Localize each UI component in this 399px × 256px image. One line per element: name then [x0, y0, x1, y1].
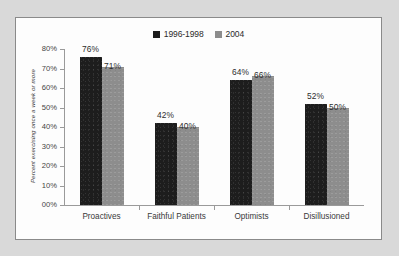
y-axis-tick: 40% — [60, 127, 64, 128]
y-axis-tick-label: 20% — [42, 161, 57, 170]
y-axis-line — [64, 49, 65, 206]
bar-1996-1998[interactable] — [305, 104, 327, 205]
chart-legend: 1996-1998 2004 — [16, 29, 381, 39]
bar-1996-1998[interactable] — [155, 123, 177, 205]
bar-value-label: 42% — [157, 110, 174, 120]
x-axis-category-label: Optimists — [234, 212, 268, 221]
bar-2004[interactable] — [327, 108, 349, 206]
y-axis-tick-label: 10% — [42, 181, 57, 190]
bar-value-label: 66% — [254, 70, 271, 80]
y-axis-tick-label: 00% — [42, 200, 57, 209]
chart-figure: 1996-1998 2004 Percent exercising once a… — [15, 17, 382, 240]
bar-value-label: 40% — [179, 121, 196, 131]
bar-value-label: 64% — [232, 67, 249, 77]
y-axis-tick-label: 30% — [42, 142, 57, 151]
bar-value-label: 71% — [104, 61, 121, 71]
y-axis-tick: 80% — [60, 49, 64, 50]
legend-swatch-icon-1996-1998 — [153, 31, 160, 38]
y-axis-tick-label: 60% — [42, 83, 57, 92]
bar-2004[interactable] — [177, 127, 199, 205]
legend-entry-2004[interactable]: 2004 — [215, 29, 245, 39]
bar-value-label: 76% — [82, 44, 99, 54]
bar-value-label: 52% — [307, 91, 324, 101]
y-axis-tick: 00% — [60, 205, 64, 206]
y-axis-tick: 70% — [60, 69, 64, 70]
legend-swatch-icon-2004 — [215, 31, 222, 38]
x-axis-tick — [214, 206, 215, 210]
y-axis-tick: 60% — [60, 88, 64, 89]
x-axis-tick — [139, 206, 140, 210]
y-axis-tick: 30% — [60, 147, 64, 148]
y-axis-tick-label: 70% — [42, 64, 57, 73]
bar-2004[interactable] — [102, 67, 124, 205]
x-axis-category-label: Proactives — [82, 212, 120, 221]
y-axis-tick-label: 40% — [42, 122, 57, 131]
legend-entry-1996-1998[interactable]: 1996-1998 — [153, 29, 204, 39]
bar-value-label: 50% — [329, 102, 346, 112]
y-axis-tick: 50% — [60, 108, 64, 109]
bar-1996-1998[interactable] — [80, 57, 102, 205]
legend-label-2004: 2004 — [226, 29, 245, 39]
y-axis-tick-label: 80% — [42, 44, 57, 53]
y-axis-tick: 20% — [60, 166, 64, 167]
y-axis-title: Percent exercising once a week or more — [27, 46, 37, 206]
y-axis-tick: 10% — [60, 186, 64, 187]
bar-1996-1998[interactable] — [230, 80, 252, 205]
bar-2004[interactable] — [252, 76, 274, 205]
y-axis-tick-label: 50% — [42, 103, 57, 112]
x-axis-category-label: Faithful Patients — [147, 212, 206, 221]
plot-area: 00%10%20%30%40%50%60%70%80% 76%71%42%40%… — [64, 49, 364, 206]
x-axis-category-label: Disillusioned — [304, 212, 350, 221]
legend-label-1996-1998: 1996-1998 — [164, 29, 204, 39]
x-axis-tick — [289, 206, 290, 210]
